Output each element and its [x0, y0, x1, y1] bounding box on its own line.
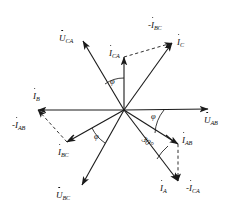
tick-mark-right — [166, 135, 174, 142]
arc-phi-right — [155, 110, 164, 133]
label-i-b: IB — [33, 92, 40, 101]
angle-label-phi-right: φ — [151, 111, 156, 121]
angle-label-phi-upper: φ — [110, 76, 115, 86]
label-i-bc: IBC — [58, 148, 69, 157]
vector-u-ab — [124, 109, 208, 110]
arc-thirty-deg — [157, 146, 168, 159]
label-i-ab: IAB — [182, 136, 192, 145]
label-neg-i-ca: -ICA — [186, 184, 200, 193]
vector-neg-i-ab-construction — [38, 110, 67, 142]
phasor-diagram: UCA ICA -IBC IC IB -IAB IBC UBC UAB IAB … — [0, 0, 232, 213]
vector-i-c — [124, 43, 172, 110]
label-u-ca: UCA — [59, 34, 73, 43]
vector-neg-i-bc-construction — [124, 43, 172, 57]
angle-label-phi-lower-left: φ — [94, 131, 99, 141]
label-i-c: IC — [177, 38, 184, 47]
label-i-ca: ICA — [109, 49, 120, 58]
phasor-canvas — [0, 0, 232, 213]
label-u-bc: UBC — [56, 191, 70, 200]
label-neg-i-ab: -IAB — [12, 121, 25, 130]
label-u-ab: UAB — [204, 116, 218, 125]
label-i-a: IA — [160, 184, 167, 193]
label-neg-i-bc: -IBC — [148, 21, 162, 30]
